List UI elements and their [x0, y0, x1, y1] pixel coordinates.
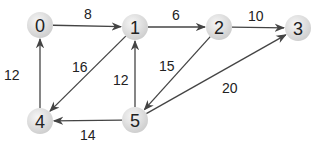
edge-0-to-1 — [53, 25, 121, 26]
node-0: 0 — [27, 12, 53, 38]
node-label: 3 — [293, 19, 303, 39]
edge-weight-label: 8 — [84, 6, 92, 22]
node-label: 4 — [35, 112, 45, 132]
node-label: 0 — [35, 16, 45, 36]
edge-5-to-4 — [54, 120, 122, 121]
edge-5-to-3 — [146, 35, 285, 114]
node-1: 1 — [122, 14, 148, 40]
graph-diagram: 8610161212152014 012345 — [0, 0, 335, 150]
edge-weight-label: 12 — [113, 72, 129, 88]
node-4: 4 — [27, 108, 53, 134]
edge-weight-label: 6 — [172, 7, 180, 23]
edge-weight-label: 14 — [80, 127, 96, 143]
edge-2-to-3 — [232, 27, 284, 28]
node-label: 2 — [214, 18, 224, 38]
edge-weight-label: 10 — [248, 8, 264, 24]
node-5: 5 — [122, 107, 148, 133]
edge-weight-label: 20 — [222, 80, 238, 96]
edge-weight-label: 15 — [159, 58, 175, 74]
node-3: 3 — [285, 15, 311, 41]
node-label: 1 — [130, 18, 140, 38]
edge-2-to-5 — [144, 37, 210, 110]
node-2: 2 — [206, 14, 232, 40]
edge-weight-label: 12 — [4, 67, 20, 83]
edge-weight-label: 16 — [72, 59, 88, 75]
node-label: 5 — [130, 111, 140, 131]
